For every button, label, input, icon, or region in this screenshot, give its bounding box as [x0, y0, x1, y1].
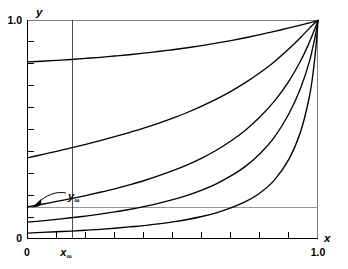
x-max-tick-label: 1.0: [311, 246, 326, 258]
plot-background: [27, 20, 318, 239]
y-axis-label: y: [35, 6, 43, 18]
equilibrium-curves-plot: y x 1.0 0 0 1.0 y∞ x∞: [0, 0, 348, 269]
x-infinity-label-sub: ∞: [66, 252, 71, 261]
y-min-tick-label: 0: [16, 232, 22, 244]
x-infinity-label: x∞: [59, 246, 71, 261]
chart-figure: y x 1.0 0 0 1.0 y∞ x∞: [0, 0, 348, 269]
x-min-tick-label: 0: [24, 246, 30, 258]
y-max-tick-label: 1.0: [7, 14, 22, 26]
x-axis-label: x: [323, 232, 331, 244]
y-infinity-label-sub: ∞: [74, 196, 79, 205]
